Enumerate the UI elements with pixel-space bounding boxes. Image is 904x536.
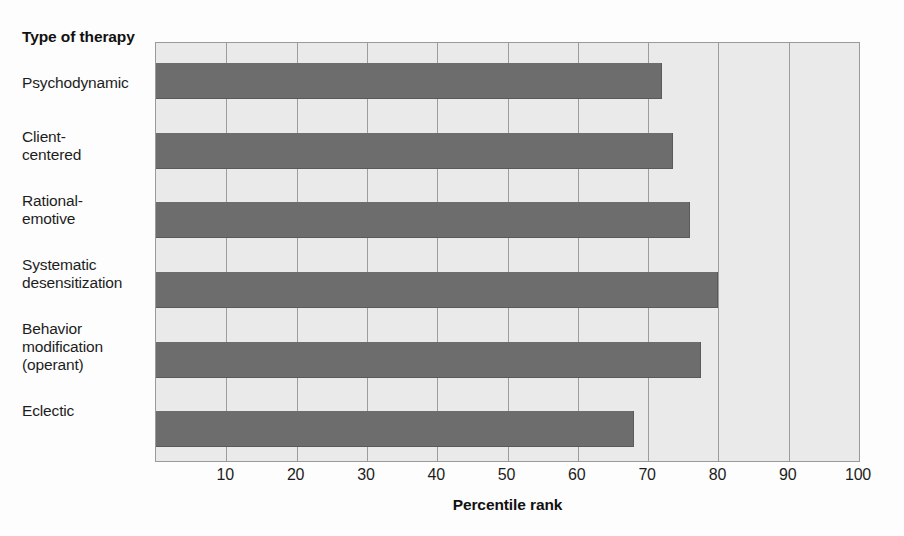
x-tick-label-100: 100	[845, 466, 871, 484]
plot-area	[155, 42, 860, 462]
bar-eclectic	[156, 411, 634, 447]
category-label-systematic-desensitization: Systematic desensitization	[22, 256, 154, 292]
x-tick-label-90: 90	[779, 466, 796, 484]
gridline-60	[578, 43, 579, 461]
x-tick-label-20: 20	[287, 466, 304, 484]
bar-behavior-modification-(operant)	[156, 342, 701, 378]
x-axis-tick-labels: 102030405060708090100	[155, 466, 860, 494]
x-tick-label-50: 50	[498, 466, 515, 484]
x-tick-label-10: 10	[217, 466, 234, 484]
category-label-eclectic: Eclectic	[22, 402, 154, 420]
bar-rational--emotive	[156, 202, 690, 238]
x-tick-label-80: 80	[709, 466, 726, 484]
category-label-client-centered: Client- centered	[22, 128, 154, 164]
bar-psychodynamic	[156, 63, 662, 99]
chart-figure: Type of therapy Psychodynamic Client- ce…	[0, 0, 904, 536]
gridline-30	[367, 43, 368, 461]
gridline-20	[297, 43, 298, 461]
x-tick-label-70: 70	[638, 466, 655, 484]
gridline-10	[226, 43, 227, 461]
category-label-rational-emotive: Rational- emotive	[22, 192, 154, 228]
x-tick-label-30: 30	[357, 466, 374, 484]
gridline-70	[648, 43, 649, 461]
gridline-50	[508, 43, 509, 461]
bar-systematic-desensitization	[156, 272, 718, 308]
gridline-40	[437, 43, 438, 461]
bar-client--centered	[156, 133, 673, 169]
category-label-behavior-modification: Behavior modification (operant)	[22, 320, 154, 374]
gridline-90	[789, 43, 790, 461]
plot-inner	[156, 43, 859, 461]
category-label-column: Psychodynamic Client- centered Rational-…	[22, 42, 152, 462]
category-label-psychodynamic: Psychodynamic	[22, 74, 154, 92]
gridline-80	[718, 43, 719, 461]
x-tick-label-60: 60	[568, 466, 585, 484]
x-axis-title: Percentile rank	[155, 496, 860, 514]
x-tick-label-40: 40	[427, 466, 444, 484]
